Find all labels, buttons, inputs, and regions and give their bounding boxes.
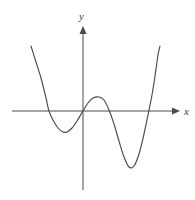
x-axis-arrowhead — [172, 108, 180, 115]
x-axis-label: x — [184, 106, 189, 117]
y-axis-label: y — [79, 11, 84, 22]
plot-canvas — [0, 0, 195, 200]
x-axis — [12, 108, 180, 115]
graph-figure: y x — [0, 0, 195, 200]
quartic-curve — [31, 46, 160, 168]
y-axis-arrowhead — [80, 26, 87, 34]
